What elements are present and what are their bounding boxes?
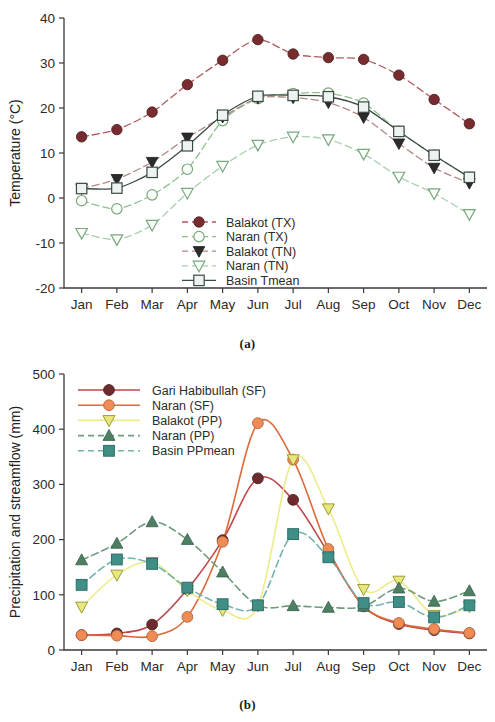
panel-a-caption: (a) xyxy=(0,336,495,352)
data-point-marker xyxy=(393,139,405,150)
data-point-marker xyxy=(288,529,299,540)
data-point-marker xyxy=(217,536,228,547)
y-tick-label: 400 xyxy=(32,422,55,437)
x-tick-label: May xyxy=(210,659,236,674)
data-point-marker xyxy=(146,516,158,527)
y-axis: 0100200300400500 xyxy=(32,367,64,658)
legend-label: Basin Tmean xyxy=(226,274,299,288)
data-point-marker xyxy=(146,220,158,231)
data-point-marker xyxy=(147,619,158,630)
legend-label: Naran (SF) xyxy=(152,399,214,413)
data-point-marker xyxy=(111,537,123,548)
data-point-marker xyxy=(76,132,86,142)
data-point-marker xyxy=(358,102,368,112)
y-axis-title: Precipitation and streamflow (mm) xyxy=(7,406,23,618)
data-point-marker xyxy=(104,385,115,396)
y-axis: -20-10010203040 xyxy=(35,11,64,296)
temperature-chart: -20-10010203040Temperature (°C)JanFebMar… xyxy=(0,0,495,360)
x-tick-label: Apr xyxy=(177,297,199,312)
data-point-marker xyxy=(104,445,115,456)
x-tick-label: Jul xyxy=(284,297,301,312)
y-tick-label: 40 xyxy=(40,11,55,26)
data-point-marker xyxy=(112,204,122,214)
data-point-marker xyxy=(429,150,439,160)
data-point-marker xyxy=(463,585,475,596)
data-point-marker xyxy=(464,210,476,221)
x-tick-label: Aug xyxy=(316,659,340,674)
chart-legend: Balakot (TX)Naran (TX)Balakot (TN)Naran … xyxy=(182,216,299,288)
series-lines xyxy=(82,420,470,638)
data-point-marker xyxy=(146,157,158,168)
data-point-marker xyxy=(182,164,192,174)
data-point-marker xyxy=(394,70,404,80)
y-axis-title: Temperature (°C) xyxy=(7,99,23,207)
series-line xyxy=(82,97,470,189)
data-point-marker xyxy=(322,504,334,515)
data-point-marker xyxy=(193,247,205,258)
legend-item: Balakot (TN) xyxy=(182,245,296,259)
panel-b-caption: (b) xyxy=(0,697,495,713)
legend-item: Naran (TN) xyxy=(182,259,289,273)
data-point-marker xyxy=(182,611,193,622)
data-point-marker xyxy=(112,183,122,193)
data-point-marker xyxy=(464,627,475,638)
data-point-marker xyxy=(393,597,404,608)
chart-panel-a: -20-10010203040Temperature (°C)JanFebMar… xyxy=(0,0,495,360)
legend-label: Basin PPmean xyxy=(152,444,235,458)
data-point-marker xyxy=(111,235,123,246)
x-axis: JanFebMarAprMayJunJulAugSepOctNovDec xyxy=(71,288,482,312)
y-tick-label: -20 xyxy=(35,281,55,296)
legend-label: Balakot (PP) xyxy=(152,414,222,428)
y-tick-label: 20 xyxy=(40,101,55,116)
series-line xyxy=(82,40,470,137)
chart-root: -20-10010203040Temperature (°C)JanFebMar… xyxy=(7,11,487,312)
data-point-marker xyxy=(194,231,204,241)
x-tick-label: Oct xyxy=(388,659,409,674)
precipitation-streamflow-chart: 0100200300400500Precipitation and stream… xyxy=(0,352,495,722)
data-point-marker xyxy=(253,34,263,44)
x-tick-label: May xyxy=(210,297,236,312)
data-point-marker xyxy=(217,110,227,120)
data-point-marker xyxy=(104,400,115,411)
series-lines xyxy=(82,40,470,240)
data-point-marker xyxy=(288,49,298,59)
y-tick-label: -10 xyxy=(35,236,55,251)
data-point-marker xyxy=(358,598,369,609)
x-tick-label: Sep xyxy=(352,659,376,674)
data-point-marker xyxy=(464,172,474,182)
data-point-marker xyxy=(76,602,88,613)
data-point-marker xyxy=(464,600,475,611)
y-tick-label: 30 xyxy=(40,56,55,71)
data-point-marker xyxy=(76,183,86,193)
data-point-marker xyxy=(193,261,205,272)
data-point-marker xyxy=(288,494,299,505)
legend-item: Basin Tmean xyxy=(182,274,299,288)
data-point-marker xyxy=(194,217,204,227)
x-tick-label: Feb xyxy=(105,659,128,674)
figure-container: -20-10010203040Temperature (°C)JanFebMar… xyxy=(0,0,495,722)
data-point-marker xyxy=(429,94,439,104)
y-tick-label: 500 xyxy=(32,367,55,382)
chart-legend: Gari Habibullah (SF)Naran (SF)Balakot (P… xyxy=(78,384,266,459)
legend-label: Balakot (TN) xyxy=(226,245,296,259)
x-tick-label: Nov xyxy=(422,297,446,312)
data-point-marker xyxy=(464,119,474,129)
x-tick-label: Mar xyxy=(141,659,165,674)
y-tick-label: 200 xyxy=(32,532,55,547)
data-point-marker xyxy=(147,107,157,117)
chart-panel-b: 0100200300400500Precipitation and stream… xyxy=(0,352,495,722)
data-point-marker xyxy=(76,630,87,641)
x-tick-label: Jun xyxy=(247,659,269,674)
x-tick-label: Apr xyxy=(177,659,199,674)
data-point-marker xyxy=(288,90,298,100)
x-axis: JanFebMarAprMayJunJulAugSepOctNovDec xyxy=(71,650,482,674)
data-point-marker xyxy=(76,196,86,206)
y-tick-label: 10 xyxy=(40,146,55,161)
data-point-marker xyxy=(147,558,158,569)
legend-label: Naran (TN) xyxy=(226,259,289,273)
data-point-marker xyxy=(393,618,404,629)
legend-label: Balakot (TX) xyxy=(226,216,295,230)
data-point-marker xyxy=(252,418,263,429)
y-tick-label: 0 xyxy=(47,643,55,658)
data-point-marker xyxy=(147,631,158,642)
